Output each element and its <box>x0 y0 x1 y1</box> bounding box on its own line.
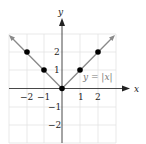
x-tick-2: 2 <box>95 92 101 102</box>
x-tick-1: 1 <box>78 92 84 102</box>
y-tick-neg1: −1 <box>48 102 61 112</box>
y-tick-2: 2 <box>54 47 60 57</box>
y-tick-neg2: −2 <box>48 120 61 130</box>
y-axis-label: y <box>57 7 64 17</box>
y-axis-arrow-icon <box>59 18 65 26</box>
x-axis-arrow-icon <box>122 86 130 92</box>
point-0-0 <box>59 86 65 92</box>
point-neg2-2 <box>24 49 30 55</box>
abs-value-graph: y x −2 −1 1 2 2 1 −1 −2 y = |x| <box>0 0 146 144</box>
x-tick-neg1: −1 <box>37 92 50 102</box>
x-axis-label: x <box>134 84 139 94</box>
equation-label: y = |x| <box>82 72 113 83</box>
point-2-2 <box>95 49 101 55</box>
x-tick-neg2: −2 <box>20 92 33 102</box>
point-1-1 <box>77 67 83 73</box>
y-tick-1: 1 <box>54 65 60 75</box>
point-neg1-1 <box>41 67 47 73</box>
